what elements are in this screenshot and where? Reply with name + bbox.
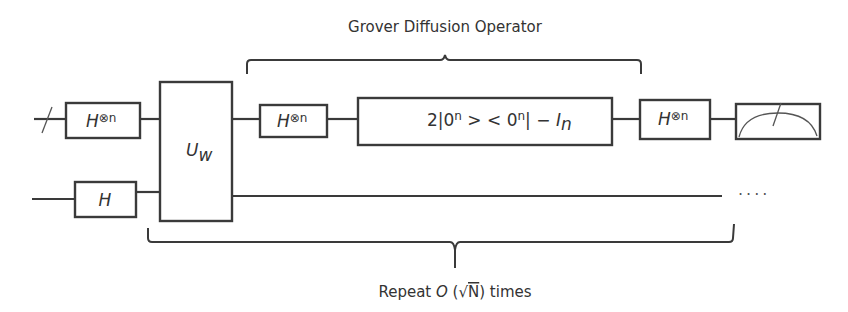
svg-text:H: H [99,190,112,210]
hadamard-n-gate-1: H⊗n [66,103,140,138]
repeat-label: Repeat O (√N) times [378,283,531,301]
repeat-brace [148,224,734,268]
diffusion-operator-brace [247,55,641,74]
diffusion-reflection-gate: 2|0n > < 0n| − In [358,98,612,145]
diffusion-operator-label: Grover Diffusion Operator [348,18,543,36]
hadamard-n-gate-2: H⊗n [260,105,327,137]
hadamard-n-gate-3: H⊗n [640,100,710,139]
oracle-gate: Uw [160,82,232,221]
grover-circuit-diagram: Grover Diffusion Operator ···· H⊗n H Uw [0,0,848,312]
hadamard-gate: H [75,182,136,217]
continuation-dots: ···· [738,185,770,204]
measurement-meter [736,103,820,139]
